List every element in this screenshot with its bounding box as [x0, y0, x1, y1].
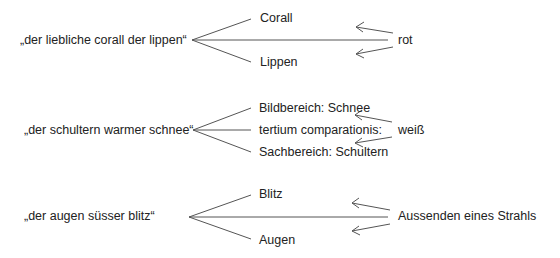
row2-phrase: „der schultern warmer schnee“ [24, 123, 194, 137]
row1-phrase: „der liebliche corall der lippen“ [20, 33, 187, 47]
row2-tertium: weiß [398, 123, 424, 137]
row2-fork [193, 108, 251, 152]
row1-lower-label: Lippen [260, 55, 298, 69]
row2-upper-label: Bildbereich: Schnee [259, 101, 370, 115]
row2-lower-label: Sachbereich: Schultern [259, 145, 388, 159]
row2-middle-label: tertium comparationis: [259, 123, 382, 137]
row3-phrase: „der augen süsser blitz“ [24, 209, 155, 223]
row3-lower-label: Augen [259, 233, 295, 247]
row3-tertium: Aussenden eines Strahls [398, 209, 536, 223]
row3-upper-label: Blitz [259, 187, 283, 201]
row1-upper-label: Corall [260, 11, 293, 25]
row1-tertium: rot [398, 33, 413, 47]
